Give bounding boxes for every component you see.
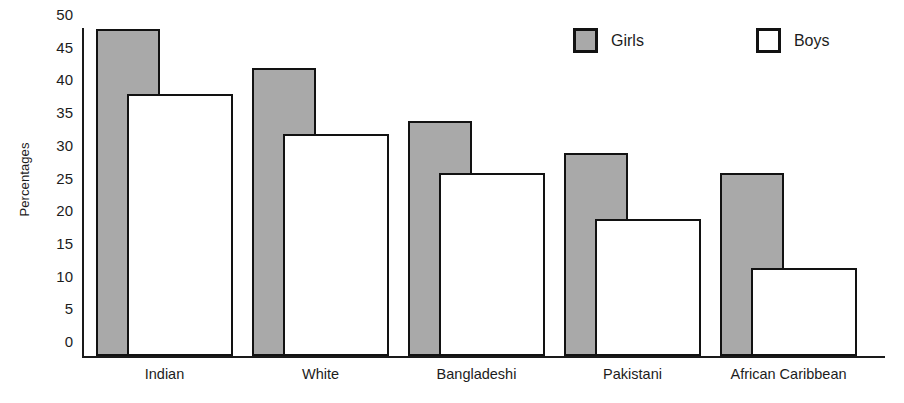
y-tick-label: 40 bbox=[56, 73, 73, 88]
y-tick-label: 25 bbox=[56, 171, 73, 186]
plot-area: 05101520253035404550 IndianWhiteBanglade… bbox=[82, 28, 885, 358]
bar-boys bbox=[127, 94, 233, 356]
chart-legend: Girls Boys bbox=[573, 28, 829, 53]
legend-swatch-girls-icon bbox=[573, 28, 598, 53]
bar-boys bbox=[595, 219, 701, 356]
bar-group bbox=[720, 29, 857, 356]
bar-boys bbox=[751, 268, 857, 356]
y-tick-label: 20 bbox=[56, 203, 73, 218]
legend-label-girls: Girls bbox=[611, 33, 644, 49]
x-tick-label: Indian bbox=[145, 367, 185, 382]
x-axis-line bbox=[82, 356, 885, 358]
legend-item-boys: Boys bbox=[756, 28, 830, 53]
legend-swatch-boys-icon bbox=[756, 28, 781, 53]
x-tick-label: African Caribbean bbox=[730, 367, 846, 382]
y-axis-line bbox=[82, 28, 84, 357]
bar-chart: Percentages 05101520253035404550 IndianW… bbox=[0, 0, 904, 403]
bar-group bbox=[564, 29, 701, 356]
y-tick-label: 50 bbox=[56, 7, 73, 22]
bar-boys bbox=[283, 134, 389, 356]
y-tick-label: 0 bbox=[65, 334, 73, 349]
x-tick-label: Bangladeshi bbox=[437, 367, 517, 382]
x-tick-label: White bbox=[302, 367, 339, 382]
bar-group bbox=[408, 29, 545, 356]
legend-item-girls: Girls bbox=[573, 28, 644, 53]
y-tick-label: 35 bbox=[56, 105, 73, 120]
y-tick-label: 10 bbox=[56, 269, 73, 284]
y-tick-label: 5 bbox=[65, 302, 73, 317]
legend-label-boys: Boys bbox=[794, 33, 830, 49]
y-tick-label: 15 bbox=[56, 236, 73, 251]
y-tick-label: 30 bbox=[56, 138, 73, 153]
bar-group bbox=[252, 29, 389, 356]
bar-boys bbox=[439, 173, 545, 356]
x-tick-label: Pakistani bbox=[603, 367, 662, 382]
y-axis-title: Percentages bbox=[17, 110, 32, 250]
y-tick-label: 45 bbox=[56, 40, 73, 55]
bar-group bbox=[96, 29, 233, 356]
